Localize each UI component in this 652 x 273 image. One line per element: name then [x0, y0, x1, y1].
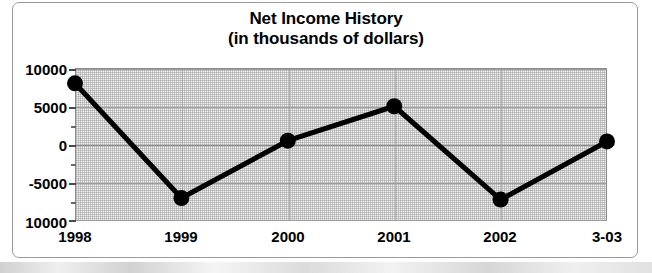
- gridline-x-2002: [501, 69, 502, 220]
- gridline-neg10000: [76, 220, 606, 221]
- gridline-10000: [76, 69, 606, 70]
- plot-area: 10000 5000 0 -5000 10000: [75, 68, 607, 221]
- ytick-major-10000: [69, 69, 76, 71]
- chart-title-line-2: (in thousands of dollars): [0, 29, 652, 49]
- xtick-label-2000: 2000: [271, 228, 304, 245]
- ytick-minor-neg2500: [71, 164, 76, 166]
- ytick-major-0: [69, 145, 76, 147]
- ytick-minor-7500: [71, 88, 76, 90]
- ytick-minor-neg7500: [71, 202, 76, 204]
- gridline-neg5000: [76, 183, 606, 184]
- ytick-label-0: 0: [59, 137, 67, 154]
- gridline-zero: [76, 145, 606, 146]
- ytick-minor-2500: [71, 126, 76, 128]
- ytick-label-5000: 5000: [34, 99, 67, 116]
- gridline-x-2001: [395, 69, 396, 220]
- ytick-major-neg10000: [69, 220, 76, 222]
- scan-artifact-band: [0, 262, 652, 273]
- ytick-major-5000: [69, 107, 76, 109]
- x-axis-labels: 1998 1999 2000 2001 2002 3-03: [75, 228, 607, 250]
- xtick-label-3-03: 3-03: [592, 228, 622, 245]
- xtick-label-1998: 1998: [58, 228, 91, 245]
- chart-title: Net Income History (in thousands of doll…: [0, 9, 652, 49]
- xtick-label-1999: 1999: [164, 228, 197, 245]
- xtick-label-2001: 2001: [377, 228, 410, 245]
- xtick-label-2002: 2002: [483, 228, 516, 245]
- gridline-5000: [76, 107, 606, 108]
- chart-title-line-1: Net Income History: [0, 9, 652, 29]
- ytick-major-neg5000: [69, 183, 76, 185]
- gridline-x-1999: [182, 69, 183, 220]
- ytick-label-neg5000: -5000: [29, 175, 67, 192]
- gridline-x-2000: [289, 69, 290, 220]
- ytick-label-10000: 10000: [25, 61, 67, 78]
